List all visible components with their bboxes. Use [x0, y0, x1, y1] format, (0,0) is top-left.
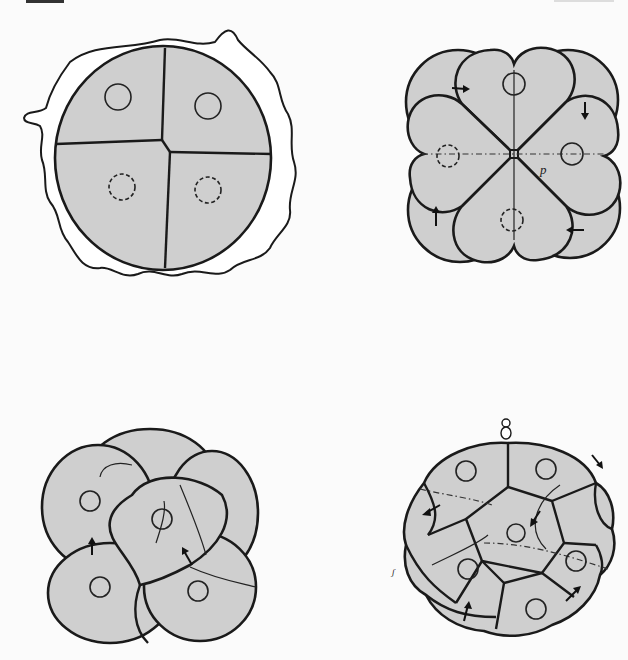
sixteen-cell-illustration: ʃ — [396, 425, 626, 650]
four-cell-embryo-illustration — [20, 22, 300, 282]
label-p: p — [539, 162, 547, 177]
figure-eight-cell-top-view: p — [400, 40, 628, 270]
eight-cell-oblique-illustration — [40, 425, 260, 645]
page-number: 222 — [26, 0, 64, 3]
figure-sixteen-cell-stage: ʃ — [396, 425, 626, 650]
eight-cell-top-view-illustration: p — [400, 40, 628, 270]
figure-four-cell-stage — [20, 22, 300, 282]
marginal-mark: ʃ — [390, 567, 396, 577]
polar-body-icon — [501, 419, 511, 439]
figure-eight-cell-oblique-view — [40, 425, 260, 645]
arrow-icon-5 — [592, 455, 603, 469]
running-header — [554, 0, 614, 2]
